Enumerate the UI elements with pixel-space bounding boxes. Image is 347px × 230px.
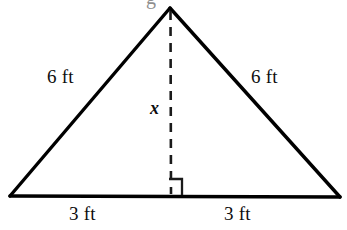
triangle-right-side <box>170 8 340 197</box>
triangle-left-side <box>10 8 170 196</box>
altitude-dashed-line <box>171 11 172 194</box>
label-left-side-length: 6 ft <box>47 67 74 86</box>
geometry-figure: 6 ft 6 ft x 3 ft 3 ft g <box>0 0 347 230</box>
clipped-top-text: g <box>146 0 156 9</box>
triangle-drawing <box>0 0 347 230</box>
label-right-side-length: 6 ft <box>251 67 278 86</box>
label-base-left-length: 3 ft <box>69 204 96 223</box>
label-base-right-length: 3 ft <box>224 204 251 223</box>
triangle-base <box>10 196 340 197</box>
label-altitude-variable: x <box>150 99 159 117</box>
